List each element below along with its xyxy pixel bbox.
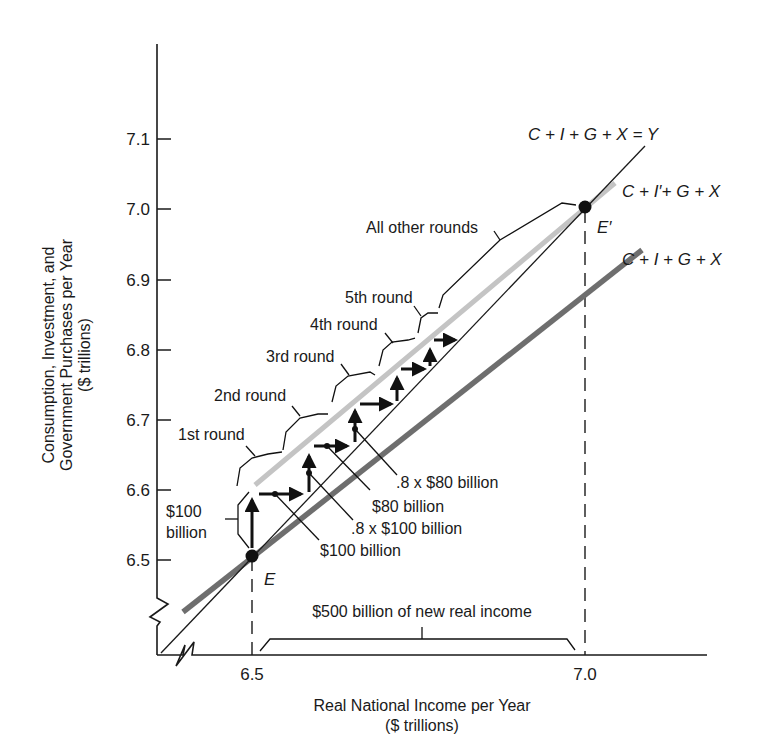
multiplier-step-arrows bbox=[252, 340, 455, 548]
label-500-billion: $500 billion of new real income bbox=[312, 603, 532, 620]
label-initial-100: $100 bbox=[166, 503, 202, 520]
y-tick: 6.6 bbox=[126, 481, 150, 500]
label-round-2: 2nd round bbox=[214, 387, 286, 404]
label-round-3: 3rd round bbox=[266, 348, 335, 365]
y-tick: 6.8 bbox=[126, 341, 150, 360]
point-e bbox=[246, 550, 259, 563]
label-all-other-rounds: All other rounds bbox=[366, 219, 478, 236]
label-08x80-billion: .8 x $80 billion bbox=[396, 474, 498, 491]
bracket-500-billion bbox=[260, 639, 575, 651]
label-80-billion: $80 billion bbox=[372, 498, 444, 515]
svg-text:($ trillions): ($ trillions) bbox=[76, 318, 93, 392]
y-tick: 6.7 bbox=[126, 411, 150, 430]
label-round-1: 1st round bbox=[178, 426, 245, 443]
bracket-initial bbox=[238, 492, 249, 548]
label-08x100-billion: .8 x $100 billion bbox=[351, 520, 462, 537]
x-tick: 7.0 bbox=[573, 665, 597, 684]
label-original-line: C + I + G + X bbox=[622, 250, 722, 269]
y-tick: 7.1 bbox=[126, 130, 150, 149]
y-axis bbox=[150, 44, 171, 655]
point-e-prime bbox=[579, 201, 592, 214]
label-round-4: 4th round bbox=[310, 316, 378, 333]
svg-text:Real National Income per Year: Real National Income per Year bbox=[313, 697, 531, 714]
y-tick: 7.0 bbox=[126, 200, 150, 219]
label-shifted-line: C + I′+ G + X bbox=[622, 182, 721, 201]
svg-text:Consumption, Investment, and: Consumption, Investment, and bbox=[40, 246, 57, 463]
label-e: E bbox=[264, 570, 276, 589]
x-tick-labels: 6.5 7.0 bbox=[240, 665, 597, 684]
y-tick: 6.5 bbox=[126, 551, 150, 570]
svg-text:Government Purchases per Year: Government Purchases per Year bbox=[58, 238, 75, 471]
y-tick: 6.9 bbox=[126, 271, 150, 290]
label-e-prime: E′ bbox=[597, 218, 612, 237]
y-tick-labels: 7.1 7.0 6.9 6.8 6.7 6.6 6.5 bbox=[126, 130, 150, 570]
multiplier-diagram: 7.1 7.0 6.9 6.8 6.7 6.6 6.5 Consumption,… bbox=[0, 0, 784, 756]
label-100-billion: $100 billion bbox=[320, 542, 401, 559]
x-axis bbox=[157, 642, 707, 666]
label-45-line: C + I + G + X = Y bbox=[528, 125, 660, 144]
svg-text:($ trillions): ($ trillions) bbox=[385, 717, 459, 734]
label-initial-billion: billion bbox=[166, 524, 207, 541]
x-axis-title: Real National Income per Year ($ trillio… bbox=[313, 697, 531, 734]
x-tick: 6.5 bbox=[240, 665, 264, 684]
y-axis-title: Consumption, Investment, and Government … bbox=[40, 238, 93, 471]
label-round-5: 5th round bbox=[345, 289, 413, 306]
